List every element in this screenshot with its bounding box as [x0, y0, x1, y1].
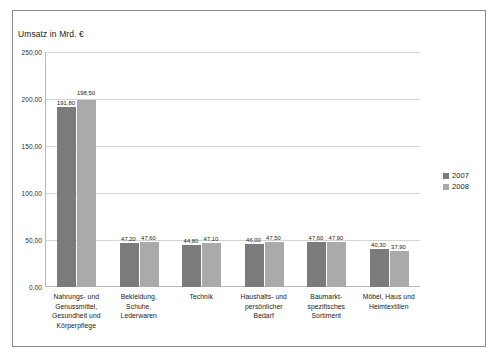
- x-axis-category-label: Bekleidung,Schuhe,Lederwaren: [103, 292, 175, 321]
- x-axis-category-line: Bedarf: [228, 311, 300, 321]
- y-axis-tick-label: 50,00: [2, 237, 42, 244]
- bar-2007: [307, 242, 326, 287]
- chart-legend: 20072008: [443, 170, 487, 192]
- x-axis-category-line: Haushalts- und: [228, 292, 300, 302]
- bar-2008: [77, 100, 96, 287]
- y-axis-tick-label: 0,00: [2, 284, 42, 291]
- bar-group: 47,6047,90: [295, 52, 358, 287]
- bar-2007: [57, 107, 76, 287]
- bar-2008: [265, 242, 284, 287]
- legend-item[interactable]: 2008: [443, 181, 487, 192]
- x-axis-category-line: Nahrungs- und: [40, 292, 112, 302]
- x-axis-category-line: persönlicher: [228, 302, 300, 312]
- bar-2008: [140, 242, 159, 287]
- x-axis-category-label: Möbel, Haus undHeimtextilien: [353, 292, 425, 311]
- x-axis-category-line: spezifisches: [290, 302, 362, 312]
- legend-item-label: 2008: [452, 182, 469, 191]
- legend-item-label: 2007: [452, 171, 469, 180]
- legend-swatch-icon: [443, 173, 449, 179]
- y-axis-tick-label: 250,00: [2, 49, 42, 56]
- bar-group: 191,80198,50: [45, 52, 108, 287]
- y-axis-tick-label: 100,00: [2, 190, 42, 197]
- bar-group: 44,8047,10: [170, 52, 233, 287]
- x-axis-category-line: Körperpflege: [40, 321, 112, 331]
- x-axis-category-label: Nahrungs- undGenussmittel,Gesundheit und…: [40, 292, 112, 330]
- x-axis-category-line: Baumarkt-: [290, 292, 362, 302]
- bar-2007: [182, 245, 201, 287]
- x-axis-category-line: Bekleidung,: [103, 292, 175, 302]
- bar-2008: [202, 243, 221, 287]
- bar-value-label: 47,90: [321, 235, 351, 241]
- x-axis-category-line: Technik: [165, 292, 237, 302]
- x-axis-category-line: Genussmittel,: [40, 302, 112, 312]
- x-axis-category-label: Technik: [165, 292, 237, 302]
- bar-2007: [245, 244, 264, 287]
- bar-2007: [120, 243, 139, 287]
- y-axis-tick-labels: 0,0050,00100,00150,00200,00250,00: [0, 52, 42, 287]
- x-axis-category-labels: Nahrungs- undGenussmittel,Gesundheit und…: [45, 292, 420, 350]
- bar-2008: [327, 242, 346, 287]
- chart-figure: Umsatz in Mrd. € 0,0050,00100,00150,0020…: [0, 0, 499, 361]
- x-axis-category-line: Heimtextilien: [353, 302, 425, 312]
- x-axis-category-label: Baumarkt-spezifischesSortiment: [290, 292, 362, 321]
- bar-value-label: 47,10: [196, 236, 226, 242]
- x-axis-category-line: Lederwaren: [103, 311, 175, 321]
- x-axis-category-label: Haushalts- undpersönlicherBedarf: [228, 292, 300, 321]
- x-axis-category-line: Sortiment: [290, 311, 362, 321]
- bar-group: 40,3037,90: [358, 52, 421, 287]
- legend-item[interactable]: 2007: [443, 170, 487, 181]
- bar-value-label: 198,50: [71, 90, 101, 96]
- bar-value-label: 47,50: [259, 235, 289, 241]
- bar-2008: [390, 251, 409, 287]
- x-axis-category-line: Schuhe,: [103, 302, 175, 312]
- bar-group: 47,2047,60: [108, 52, 171, 287]
- x-axis-category-line: Gesundheit und: [40, 311, 112, 321]
- x-axis-category-line: Möbel, Haus und: [353, 292, 425, 302]
- bar-value-label: 47,60: [134, 235, 164, 241]
- bar-group: 46,0047,50: [233, 52, 296, 287]
- bar-series-layer: 191,80198,5047,2047,6044,8047,1046,0047,…: [45, 52, 420, 287]
- y-axis-tick-label: 200,00: [2, 96, 42, 103]
- y-axis-tick-label: 150,00: [2, 143, 42, 150]
- bar-value-label: 37,90: [384, 244, 414, 250]
- bar-2007: [370, 249, 389, 287]
- legend-swatch-icon: [443, 184, 449, 190]
- y-axis-title: Umsatz in Mrd. €: [18, 29, 84, 39]
